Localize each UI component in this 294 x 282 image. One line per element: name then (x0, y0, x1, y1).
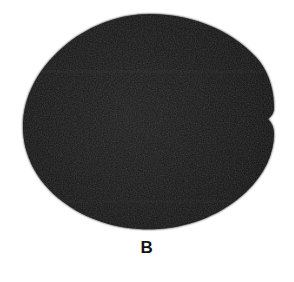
panel-label: B (0, 238, 294, 258)
scan-band-upper (0, 70, 294, 73)
figure-root: B (0, 0, 294, 282)
